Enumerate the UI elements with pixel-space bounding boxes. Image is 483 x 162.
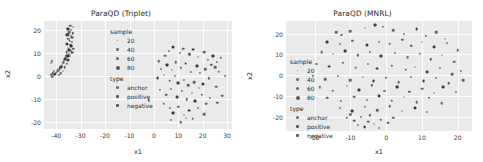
scatter-point [381, 26, 383, 28]
scatter-point [339, 43, 341, 45]
scatter-point [216, 61, 218, 63]
scatter-point [169, 107, 171, 109]
scatter-point [421, 87, 424, 90]
gridline-vertical [81, 21, 82, 129]
scatter-point [163, 74, 165, 76]
panel-triplet: ParaQD (Triplet) -40-30-20-100102030 201… [0, 0, 242, 162]
scatter-point [424, 34, 426, 36]
scatter-point [456, 49, 459, 52]
scatter-point [221, 94, 224, 97]
scatter-point [367, 62, 369, 64]
legend-item-type-anchor[interactable]: anchor [110, 83, 153, 92]
scatter-point [65, 42, 68, 45]
scatter-point [422, 80, 425, 83]
x-axis-label-mnrl: x1 [375, 148, 383, 156]
scatter-point [170, 119, 172, 121]
scatter-point [164, 54, 167, 57]
scatter-point [435, 31, 438, 34]
legend-item-sample-60[interactable]: 60 [290, 84, 333, 93]
y-axis-label-triplet: x2 [4, 70, 12, 78]
scatter-point [177, 82, 180, 85]
scatter-point [199, 72, 201, 74]
scatter-point [364, 106, 366, 108]
scatter-point [451, 73, 454, 76]
scatter-point [355, 66, 358, 69]
scatter-point [365, 99, 367, 101]
legend-item-type-positive[interactable]: positive [110, 92, 153, 101]
legend-item-sample-60[interactable]: 60 [110, 54, 153, 63]
legend-item-type-negative[interactable]: negative [110, 101, 153, 110]
legend-item-sample-80[interactable]: 80 [290, 93, 333, 102]
legend-item-type-positive[interactable]: positive [290, 122, 333, 131]
scatter-point [395, 86, 398, 89]
scatter-point [186, 98, 189, 101]
legend-item-type-negative[interactable]: negative [290, 131, 333, 140]
scatter-point [383, 89, 385, 91]
legend-label: 60 [305, 86, 315, 92]
scatter-point [346, 85, 348, 87]
scatter-point [372, 80, 375, 83]
y-tick-label: -20 [22, 119, 41, 126]
legend-item-type-anchor[interactable]: anchor [290, 113, 333, 122]
scatter-point [326, 40, 329, 43]
gridline-horizontal [286, 34, 472, 35]
scatter-point [401, 110, 403, 112]
legend-marker-icon [110, 95, 125, 98]
scatter-point [392, 116, 395, 119]
scatter-point [203, 51, 206, 54]
scatter-point [390, 64, 392, 66]
scatter-point [380, 118, 383, 121]
scatter-point [195, 64, 198, 67]
scatter-point [390, 100, 392, 102]
scatter-point [362, 76, 364, 78]
scatter-point [433, 92, 435, 94]
legend-item-sample-40[interactable]: 40 [290, 75, 333, 84]
scatter-point [214, 66, 217, 69]
legend-item-sample-40[interactable]: 40 [110, 45, 153, 54]
y-tick-label: -10 [264, 92, 283, 99]
gridline-vertical [422, 21, 423, 131]
scatter-point [439, 67, 441, 69]
scatter-point [189, 71, 191, 73]
legend-item-sample-20[interactable]: 20 [290, 66, 333, 75]
gridline-vertical [105, 21, 106, 129]
legend-size-title: sample [110, 28, 153, 35]
scatter-point [180, 67, 182, 69]
gridline-vertical [178, 21, 179, 129]
x-tick-label: -10 [125, 132, 135, 139]
scatter-point [369, 51, 371, 53]
legend-marker-icon [290, 116, 305, 119]
scatter-point [351, 110, 354, 113]
y-tick-label: -10 [22, 96, 41, 103]
scatter-point [337, 75, 339, 77]
legend-label: positive [305, 124, 330, 130]
scatter-point [72, 26, 74, 28]
scatter-point [378, 94, 381, 97]
scatter-point [188, 109, 191, 112]
scatter-point [405, 69, 408, 72]
scatter-point [455, 91, 457, 93]
scatter-point [376, 109, 379, 112]
legend-marker-icon [290, 87, 305, 90]
legend-item-sample-80[interactable]: 80 [110, 63, 153, 72]
legend-marker-icon [290, 125, 305, 128]
legend-label: 40 [305, 77, 315, 83]
scatter-point [367, 120, 370, 123]
scatter-point [179, 121, 182, 124]
scatter-point [71, 36, 74, 39]
legend-label: 80 [125, 65, 135, 71]
x-tick-label: -30 [76, 132, 86, 139]
legend-item-sample-20[interactable]: 20 [110, 36, 153, 45]
scatter-point [162, 102, 165, 105]
legend-label: 40 [125, 47, 135, 53]
scatter-point [444, 38, 446, 40]
scatter-point [158, 60, 161, 63]
legend-marker-icon [110, 40, 125, 42]
x-tick-label: 30 [223, 132, 231, 139]
scatter-point [397, 81, 400, 84]
legend-label: 20 [305, 68, 315, 74]
scatter-point [172, 111, 175, 114]
scatter-point [428, 97, 430, 99]
scatter-point [72, 47, 75, 50]
scatter-point [204, 68, 207, 71]
